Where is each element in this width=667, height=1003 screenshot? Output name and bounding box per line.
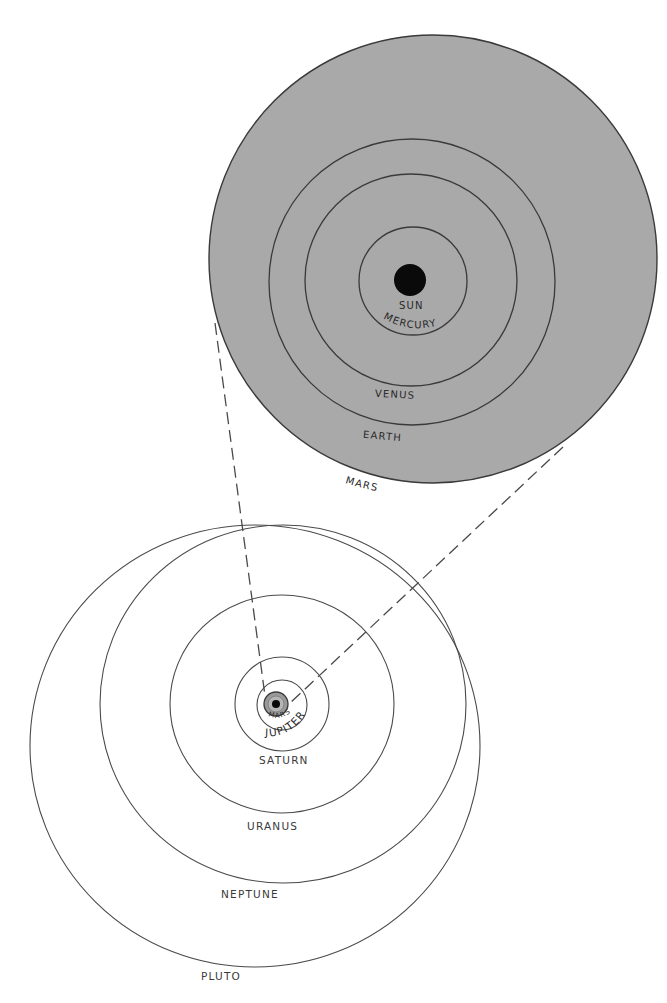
label-mars-top: MARS — [344, 474, 379, 493]
label-pluto: PLUTO — [201, 970, 241, 982]
outer-solar-system: MARS JUPITER SATURN URANUS NEPTUNE PLUTO — [30, 525, 480, 982]
mars-orbit — [209, 35, 657, 483]
label-uranus: URANUS — [247, 820, 298, 832]
inner-solar-system: SUN MERCURY VENUS EARTH MARS — [209, 35, 657, 493]
dashed-line-right — [289, 447, 563, 704]
label-sun: SUN — [399, 300, 424, 311]
pluto-orbit — [30, 525, 480, 967]
label-saturn: SATURN — [259, 754, 309, 766]
mini-sun-icon — [272, 700, 280, 708]
solar-system-orbits-diagram: SUN MERCURY VENUS EARTH MARS MARS — [0, 0, 667, 1003]
label-venus: VENUS — [375, 388, 416, 401]
sun-icon — [394, 264, 426, 296]
label-neptune: NEPTUNE — [221, 888, 279, 900]
